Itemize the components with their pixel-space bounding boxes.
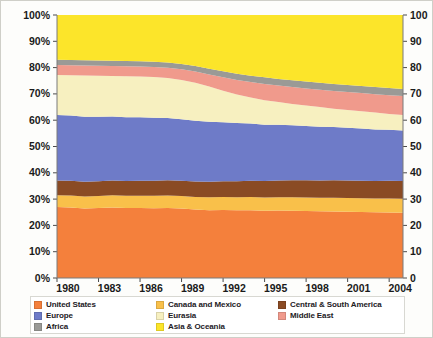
legend-item[interactable]: Asia & Oceania <box>156 321 278 332</box>
y-axis-label-left: 50% <box>29 140 51 152</box>
y-axis-label-left: 90% <box>29 35 51 47</box>
legend-color-swatch <box>278 301 286 309</box>
y-axis-label-left: 70% <box>29 87 51 99</box>
area-band <box>57 207 403 278</box>
legend-label: Eurasia <box>168 311 196 320</box>
y-axis-label-left: 80% <box>29 61 51 73</box>
y-axis-label-left: 60% <box>29 114 51 126</box>
legend-label: Asia & Oceania <box>168 322 225 331</box>
y-axis-label-left: 100% <box>23 9 51 21</box>
y-axis-label-right: 70 <box>410 87 422 99</box>
chart-svg: 0%10%20%30%40%50%60%70%80%90%100%0102030… <box>1 1 433 293</box>
y-axis-label-left: 20% <box>29 219 51 231</box>
y-axis-label-right: 30 <box>410 193 422 205</box>
legend-item[interactable]: Europe <box>34 310 156 321</box>
chart-legend: United StatesCanada and MexicoCentral & … <box>30 296 405 334</box>
x-axis-label: 1992 <box>222 282 246 293</box>
legend-color-swatch <box>156 301 164 309</box>
legend-item[interactable]: Central & South America <box>278 299 404 310</box>
legend-label: Europe <box>46 311 73 320</box>
stacked-area-chart: 0%10%20%30%40%50%60%70%80%90%100%0102030… <box>1 1 433 293</box>
y-axis-label-right: 60 <box>410 114 422 126</box>
x-axis-label: 1980 <box>56 282 80 293</box>
legend-item[interactable]: United States <box>34 299 156 310</box>
y-axis-label-left: 0% <box>35 272 51 284</box>
y-axis-label-right: 20 <box>410 219 422 231</box>
legend-item-empty <box>278 321 404 332</box>
legend-color-swatch <box>34 312 42 320</box>
legend-color-swatch <box>34 301 42 309</box>
legend-item[interactable]: Canada and Mexico <box>156 299 278 310</box>
x-axis-label: 1995 <box>264 282 288 293</box>
legend-label: Middle East <box>290 311 333 320</box>
legend-item[interactable]: Eurasia <box>156 310 278 321</box>
legend-label: Canada and Mexico <box>168 300 241 309</box>
x-axis-label: 1986 <box>139 282 163 293</box>
y-axis-label-right: 50 <box>410 140 422 152</box>
y-axis-label-left: 10% <box>29 245 51 257</box>
legend-label: Central & South America <box>290 300 382 309</box>
y-axis-label-right: 10 <box>410 245 422 257</box>
legend-color-swatch <box>156 312 164 320</box>
legend-item[interactable]: Middle East <box>278 310 404 321</box>
x-axis-label: 2001 <box>347 282 371 293</box>
y-axis-label-right: 40 <box>410 166 422 178</box>
y-axis-label-right: 100 <box>410 9 428 21</box>
y-axis-label-right: 80 <box>410 61 422 73</box>
x-axis-label: 1989 <box>181 282 205 293</box>
x-axis-label: 1998 <box>305 282 329 293</box>
legend-color-swatch <box>156 323 164 331</box>
y-axis-label-left: 40% <box>29 166 51 178</box>
legend-label: Africa <box>46 322 68 331</box>
y-axis-label-right: 90 <box>410 35 422 47</box>
y-axis-label-left: 30% <box>29 193 51 205</box>
x-axis-label: 1983 <box>98 282 122 293</box>
legend-label: United States <box>46 300 96 309</box>
chart-figure: 0%10%20%30%40%50%60%70%80%90%100%0102030… <box>0 0 433 338</box>
x-axis-label: 2004 <box>388 282 412 293</box>
legend-grid: United StatesCanada and MexicoCentral & … <box>34 299 401 332</box>
legend-item[interactable]: Africa <box>34 321 156 332</box>
legend-color-swatch <box>34 323 42 331</box>
legend-color-swatch <box>278 312 286 320</box>
